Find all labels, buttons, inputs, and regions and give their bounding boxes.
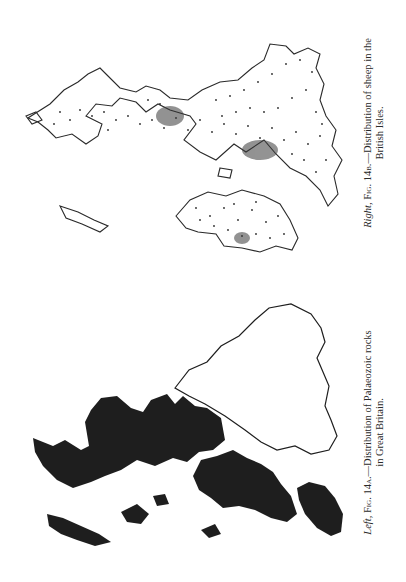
caption-14b-text: —Distribution of sheep in the xyxy=(362,38,373,163)
caption-14a-line1: Left, Fig. 14a.—Distribution of Palaeozo… xyxy=(362,305,374,560)
caption-14b-position: Right, xyxy=(362,202,373,227)
caption-fig-14b: Right, Fig. 14b.—Distribution of sheep i… xyxy=(362,28,386,238)
sheep-map-graphic xyxy=(20,20,350,260)
caption-14b-line1: Right, Fig. 14b.—Distribution of sheep i… xyxy=(362,28,374,238)
caption-14b-fig-label: Fig. 14b. xyxy=(362,164,373,200)
caption-14a-line2: in Great Britain. xyxy=(374,305,386,560)
caption-14a-text: —Distribution of Palaeozoic rocks xyxy=(362,330,373,476)
palaeozoic-map-graphic xyxy=(25,300,350,560)
caption-14a-fig-label: Fig. 14a. xyxy=(362,476,373,513)
caption-14b-line2: British Isles. xyxy=(374,28,386,238)
palaeozoic-rocks-map xyxy=(25,300,350,560)
caption-14a-position: Left, xyxy=(362,516,373,535)
caption-fig-14a: Left, Fig. 14a.—Distribution of Palaeozo… xyxy=(362,305,386,560)
sheep-distribution-map xyxy=(20,20,350,260)
